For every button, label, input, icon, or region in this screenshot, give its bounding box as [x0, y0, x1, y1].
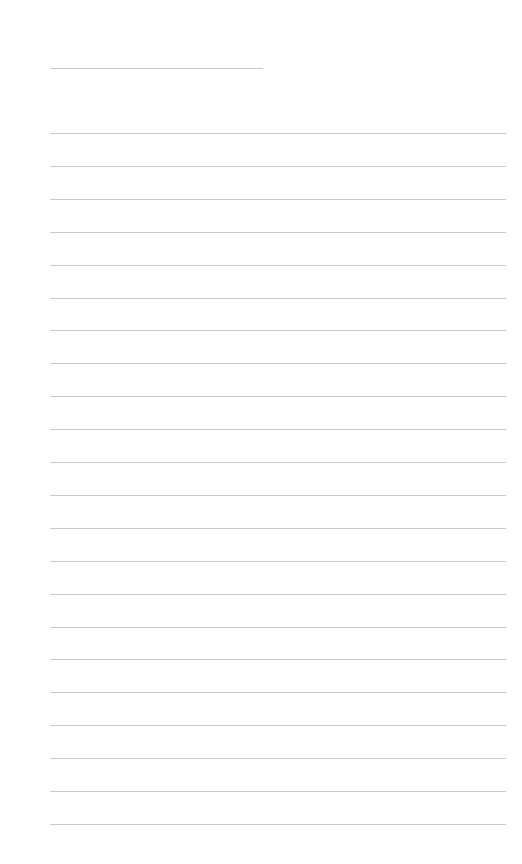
- ruled-line: [50, 594, 506, 595]
- ruled-line: [50, 265, 506, 266]
- ruled-line: [50, 824, 506, 825]
- ruled-line: [50, 330, 506, 331]
- ruled-line: [50, 396, 506, 397]
- ruled-line: [50, 429, 506, 430]
- ruled-line: [50, 133, 506, 134]
- ruled-line: [50, 561, 506, 562]
- ruled-line: [50, 528, 506, 529]
- ruled-line: [50, 495, 506, 496]
- ruled-line: [50, 462, 506, 463]
- ruled-line: [50, 298, 506, 299]
- header-line: [50, 68, 263, 69]
- ruled-line: [50, 166, 506, 167]
- ruled-line: [50, 758, 506, 759]
- ruled-line: [50, 692, 506, 693]
- ruled-line: [50, 791, 506, 792]
- ruled-line: [50, 363, 506, 364]
- ruled-line: [50, 232, 506, 233]
- ruled-line: [50, 659, 506, 660]
- ruled-line: [50, 725, 506, 726]
- ruled-line: [50, 627, 506, 628]
- ruled-line: [50, 199, 506, 200]
